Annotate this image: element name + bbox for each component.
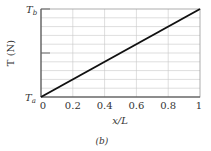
x-tick-labels: 0 0.2 0.4 0.6 0.8 1 [40, 100, 202, 111]
x-tick-0.4: 0.4 [97, 100, 113, 111]
tension-chart: Tb Ta T (N) 0 0.2 0.4 0.6 0.8 1 x/L (b) [0, 0, 211, 151]
x-tick-1: 1 [196, 100, 202, 111]
x-axis-label: x/L [112, 115, 128, 126]
x-tick-0.2: 0.2 [65, 100, 81, 111]
x-tick-0.6: 0.6 [128, 100, 144, 111]
x-tick-0: 0 [40, 100, 46, 111]
figure-caption: (b) [96, 136, 109, 146]
y-axis-label: T (N) [5, 40, 16, 67]
x-tick-0.8: 0.8 [160, 100, 176, 111]
y-tick-label-Ta: Ta [25, 92, 36, 105]
y-tick-label-Tb: Tb [26, 4, 38, 17]
